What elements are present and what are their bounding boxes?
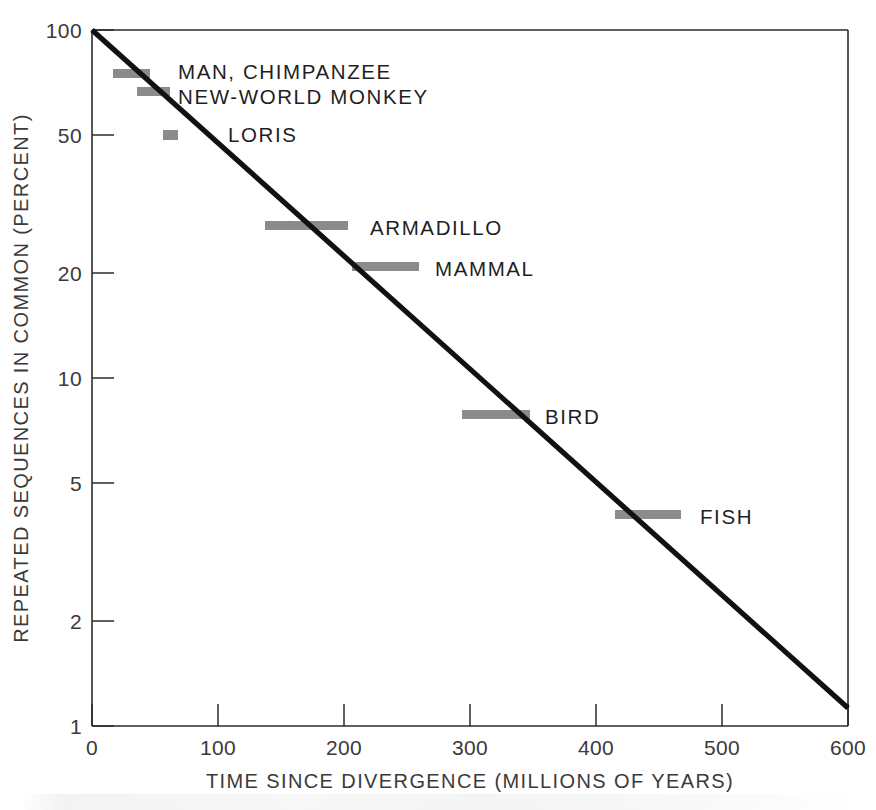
x-tick-label-500: 500 xyxy=(704,736,740,759)
annotation-bird: BIRD xyxy=(545,405,600,428)
annotation-man-chimpanzee: MAN, CHIMPANZEE xyxy=(178,60,392,83)
x-axis-tick-labels: 0 100 200 300 400 500 600 xyxy=(86,736,866,759)
x-tick-label-200: 200 xyxy=(326,736,362,759)
annotation-loris: LORIS xyxy=(228,123,298,146)
x-tick-label-600: 600 xyxy=(830,736,866,759)
y-tick-label-50: 50 xyxy=(58,124,82,147)
annotation-new-world-monkey: NEW-WORLD MONKEY xyxy=(178,85,429,108)
annotation-fish: FISH xyxy=(700,505,753,528)
x-tick-label-100: 100 xyxy=(200,736,236,759)
data-bar-loris xyxy=(163,130,178,140)
y-tick-label-2: 2 xyxy=(70,610,82,633)
y-axis-tick-labels: 100 50 20 10 5 2 1 xyxy=(46,19,82,738)
x-tick-label-300: 300 xyxy=(452,736,488,759)
y-axis-ticks xyxy=(92,30,114,726)
x-axis-title: TIME SINCE DIVERGENCE (MILLIONS OF YEARS… xyxy=(206,770,734,792)
annotation-mammal: MAMMAL xyxy=(435,257,535,280)
x-tick-label-400: 400 xyxy=(578,736,614,759)
y-tick-label-1: 1 xyxy=(70,715,82,738)
scatter-chart: 100 50 20 10 5 2 1 0 100 200 300 400 500 xyxy=(0,0,876,810)
x-tick-label-0: 0 xyxy=(86,736,98,759)
y-tick-label-5: 5 xyxy=(70,472,82,495)
y-tick-label-20: 20 xyxy=(58,262,82,285)
y-tick-label-100: 100 xyxy=(46,19,82,42)
y-tick-label-10: 10 xyxy=(58,367,82,390)
annotation-armadillo: ARMADILLO xyxy=(370,216,503,239)
y-axis-title: REPEATED SEQUENCES IN COMMON (PERCENT) xyxy=(10,113,32,643)
figure-root: 100 50 20 10 5 2 1 0 100 200 300 400 500 xyxy=(0,0,876,810)
